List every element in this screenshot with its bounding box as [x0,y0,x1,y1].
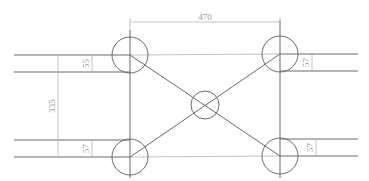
diagonal-braces [130,54,280,157]
dimension-label-57-top-right: 57 [301,58,311,68]
left-beam-lines [14,55,130,157]
dimension-top-width: 470 [130,12,280,36]
dimension-label-57-bottom-left: 57 [81,144,91,154]
dimension-top-left-offset: 55 [81,55,92,72]
technical-drawing: 470 335 55 57 57 57 [0,0,369,181]
dimension-label-55: 55 [81,59,91,69]
dimension-top-right-offset: 57 [301,54,312,71]
dimension-bottom-right-offset: 57 [305,139,316,156]
dimension-label-335: 335 [47,99,57,113]
frame-lines [130,20,280,178]
dimension-bottom-left-offset: 57 [81,140,92,157]
dimension-label-57-bottom-right: 57 [305,143,315,153]
right-beam-lines [280,54,358,156]
dimension-label-470: 470 [198,12,212,22]
dimension-left-height: 335 [47,55,58,157]
